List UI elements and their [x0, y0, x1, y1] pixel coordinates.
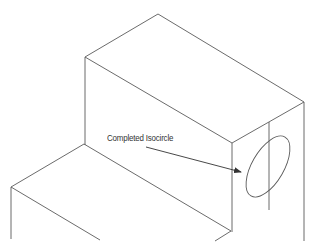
edge-upper-top-back-right: [158, 14, 304, 102]
isometric-drawing: [0, 0, 311, 247]
drawing-edges: [11, 14, 304, 241]
completed-isocircle-label: Completed Isocircle: [107, 133, 173, 143]
isocircle-ellipse: [237, 129, 299, 204]
edge-upper-top-front-right: [232, 102, 304, 143]
edge-lower-top-back-right: [84, 144, 231, 231]
edge-lower-front-diagonal: [11, 187, 100, 240]
edge-lower-step-stub: [215, 231, 231, 241]
edge-upper-top-back-left: [85, 14, 158, 57]
leader-arrow: [146, 147, 241, 172]
edge-lower-top-back-left: [11, 144, 84, 187]
edge-upper-top-front-left: [85, 57, 232, 143]
